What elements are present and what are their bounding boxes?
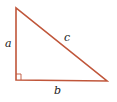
triangle: [16, 8, 107, 81]
side-label-a: a: [5, 37, 12, 50]
right-triangle-diagram: a c b: [0, 0, 117, 102]
side-label-b: b: [54, 84, 61, 97]
side-label-c: c: [64, 31, 70, 44]
